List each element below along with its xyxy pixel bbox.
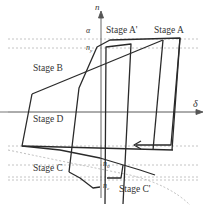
nc-label: nc [103, 181, 110, 191]
stage-c-prime-label: Stage C' [119, 184, 151, 194]
delta-axis-arrow-icon [196, 110, 203, 115]
stage-a-prime-label: Stage A' [106, 25, 138, 35]
stage-d-label: Stage D [33, 114, 63, 124]
stage-c-label: Stage C [33, 163, 63, 173]
stage-a-inner-line [153, 40, 163, 150]
n-axis-label: n [95, 2, 100, 12]
delta-axis-label: δ [193, 98, 198, 109]
n-axis-arrow-icon [99, 11, 104, 18]
hysteresis-diagram: n δ α ny n0 nc Stage A' Stage A Stage B … [0, 0, 209, 211]
alpha-label: α [86, 26, 91, 35]
stage-a-label: Stage A [154, 25, 184, 35]
ny-label: ny [86, 43, 93, 53]
outer-loop [69, 38, 180, 172]
stage-b-label: Stage B [33, 63, 63, 73]
